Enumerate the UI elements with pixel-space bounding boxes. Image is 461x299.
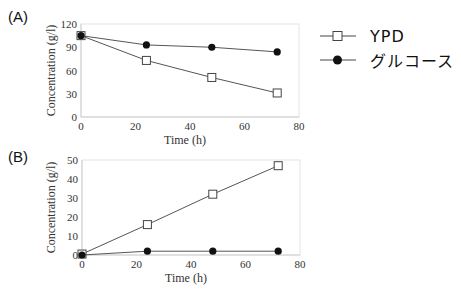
x-tick-label: 0 [79,258,85,270]
filled-circle-marker-icon [78,251,85,258]
series-line [82,166,278,254]
y-axis-label: Concentration (g/l) [44,162,58,254]
y-tick-label: 50 [67,154,79,166]
filled-circle-marker-icon [275,248,282,255]
filled-circle-marker-icon [144,248,151,255]
x-axis-label: Time (h) [165,271,207,285]
x-tick-label: 40 [186,258,198,270]
legend-label-ypd: YPD [370,27,405,46]
open-square-marker-icon [318,29,358,43]
y-tick-label: 40 [67,173,79,185]
plot-frame [82,160,300,255]
y-tick-label: 20 [67,211,79,223]
filled-circle-marker-icon [318,53,358,67]
y-tick-label: 10 [67,230,79,242]
open-square-marker-icon [209,190,217,198]
x-tick-label: 20 [131,258,143,270]
x-tick-label: 80 [295,258,307,270]
legend: YPD グルコース [318,24,458,72]
legend-label-glucose: グルコース [370,48,454,72]
x-tick-label: 60 [240,258,252,270]
series-line [82,251,278,255]
legend-item-ypd: YPD [318,24,458,48]
open-square-marker-icon [143,221,151,229]
filled-circle-marker-icon [209,248,216,255]
y-tick-label: 30 [67,192,79,204]
open-square-marker-icon [274,162,282,170]
legend-item-glucose: グルコース [318,48,458,72]
